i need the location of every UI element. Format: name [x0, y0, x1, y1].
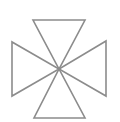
triangle-left [12, 42, 59, 96]
triangle-bottom [34, 69, 85, 118]
cross-diagram [0, 0, 120, 122]
triangle-right [59, 41, 106, 96]
triangle-top [33, 20, 85, 69]
